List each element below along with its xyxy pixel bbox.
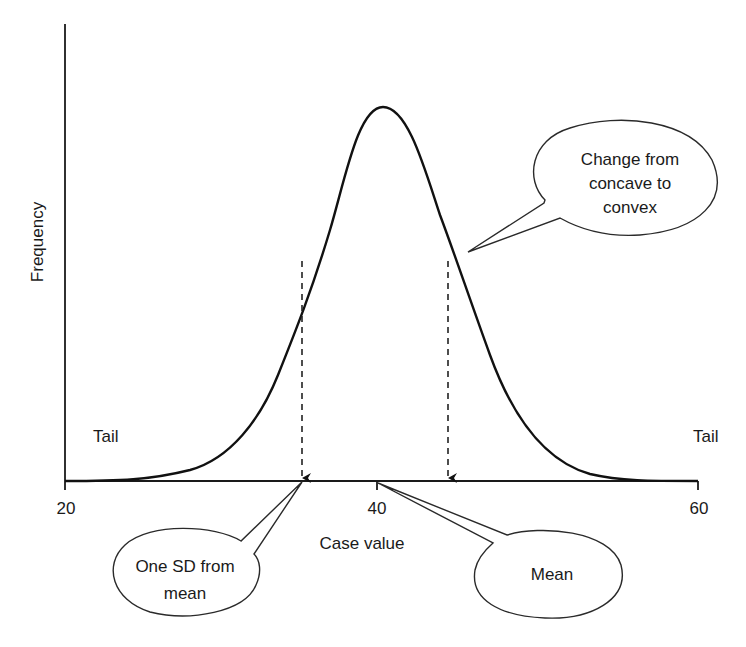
x-tick-label-20: 20 [57, 499, 76, 518]
tail-left-label: Tail [93, 427, 119, 446]
callout-mean: Mean [378, 483, 622, 618]
callout-mean-bubble [378, 483, 622, 618]
x-tick-label-60: 60 [690, 499, 709, 518]
callout-inflection-line2: concave to [589, 174, 671, 193]
callout-inflection-line3: convex [603, 198, 657, 217]
callout-inflection-line1: Change from [581, 150, 679, 169]
normal-distribution-diagram: Frequency 20 40 60 Case value Tail Tail … [0, 0, 746, 647]
callout-inflection: Change from concave to convex [468, 120, 717, 252]
callout-mean-label: Mean [531, 565, 574, 584]
x-axis-label: Case value [319, 534, 404, 553]
callout-one-sd-line2: mean [164, 584, 207, 603]
callout-one-sd-line1: One SD from [135, 557, 234, 576]
callout-one-sd-bubble [113, 482, 302, 616]
y-axis-label: Frequency [28, 201, 47, 282]
x-tick-label-40: 40 [368, 499, 387, 518]
tail-right-label: Tail [693, 427, 719, 446]
callout-one-sd: One SD from mean [113, 482, 302, 616]
